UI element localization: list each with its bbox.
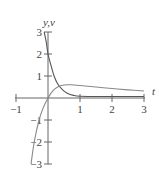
y-axis-label: y,v [42, 16, 55, 28]
y-tick-label: 2 [37, 48, 43, 60]
y-tick-label: 1 [37, 70, 43, 82]
x-axis-label: t [152, 85, 156, 97]
x-tick-label: −1 [10, 103, 22, 115]
x-tick-label: 1 [77, 103, 83, 115]
x-tick-label: 3 [141, 103, 147, 115]
y-tick-label: −2 [30, 136, 42, 148]
x-tick-label: 2 [109, 103, 115, 115]
y-tick-label: 3 [37, 26, 43, 38]
chart: −1123321−1−2−3 t y,v [0, 0, 159, 179]
